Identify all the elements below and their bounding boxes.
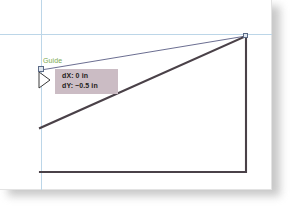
guide-label: Guide <box>43 57 62 64</box>
arrow-cursor <box>39 72 50 88</box>
shape-outline-polyline[interactable] <box>40 36 246 172</box>
vertex-handle-top-right[interactable] <box>243 33 248 38</box>
vector-drawing-layer <box>0 0 290 208</box>
measurement-tooltip: dX: 0 in dY: −0.5 in <box>55 69 118 94</box>
inference-line <box>41 36 246 70</box>
measurement-dx: dX: 0 in <box>62 71 118 81</box>
application-canvas-screenshot: Guide dX: 0 in dY: −0.5 in <box>0 0 290 208</box>
vertex-handle-guide-origin[interactable] <box>38 66 44 72</box>
measurement-dy: dY: −0.5 in <box>62 81 118 91</box>
